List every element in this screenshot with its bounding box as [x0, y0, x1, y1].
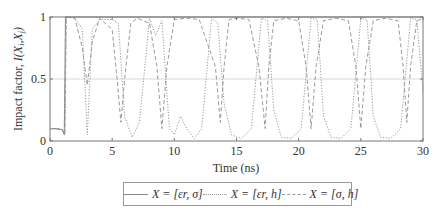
legend-label: X = [σ, h]	[310, 187, 359, 202]
dotted-line-swatch-icon	[203, 194, 227, 195]
legend-label: X = [εr, σ]	[152, 187, 203, 202]
x-tick-label: 5	[109, 144, 115, 158]
legend-item-er-sigma: X = [εr, σ]	[124, 187, 203, 202]
x-tick-label: 0	[47, 144, 53, 158]
y-tick-label: 0	[40, 134, 46, 148]
chart-legend: X = [εr, σ] X = [εr, h] X = [σ, h]	[123, 182, 352, 206]
y-tick-label: 0.5	[31, 72, 46, 86]
x-tick-label: 15	[231, 144, 243, 158]
dashed-line-swatch-icon	[282, 194, 306, 195]
x-tick-label: 10	[168, 144, 180, 158]
x-axis-ticks: 051015202530	[47, 17, 429, 158]
series-group	[50, 17, 423, 139]
x-tick-label: 20	[293, 144, 305, 158]
y-axis-title: Impact factor, I(Xi,Xj)	[11, 27, 26, 131]
series-line-dotted	[50, 17, 423, 139]
legend-item-er-h: X = [εr, h]	[203, 187, 282, 202]
legend-item-sigma-h: X = [σ, h]	[282, 187, 359, 202]
series-line-dashed	[50, 17, 423, 135]
x-tick-label: 30	[417, 144, 429, 158]
legend-label: X = [εr, h]	[231, 187, 282, 202]
solid-line-swatch-icon	[124, 194, 148, 195]
x-axis-title: Time (ns)	[213, 161, 260, 175]
y-tick-label: 1	[40, 10, 46, 24]
x-tick-label: 25	[355, 144, 367, 158]
line-chart: 051015202530 00.51 Time (ns) Impact fact…	[0, 0, 444, 180]
series-line-solid	[50, 17, 423, 135]
